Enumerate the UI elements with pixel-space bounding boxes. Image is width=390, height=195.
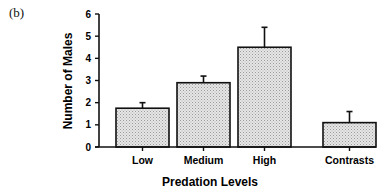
bar-low [116,103,169,147]
y-tick-label: 5 [85,31,91,42]
y-axis: 0123456 [85,9,99,153]
bar-contrasts [323,112,376,147]
y-tick-label: 4 [85,53,91,64]
bar-high [238,27,291,147]
x-tick-label: Contrasts [325,154,374,166]
x-axis: LowMediumHighContrasts [95,147,376,166]
x-tick-label: Medium [184,154,224,166]
y-tick-label: 3 [85,75,91,86]
y-tick-label: 6 [85,9,91,20]
y-tick-label: 2 [85,97,91,108]
y-axis-title: Number of Males [61,32,75,129]
bars [116,27,376,147]
y-tick-label: 1 [85,119,91,130]
y-tick-label: 0 [85,142,91,153]
x-tick-label: Low [132,154,154,166]
x-tick-label: High [253,154,276,166]
bar-chart: 0123456 LowMediumHighContrasts Number of… [0,0,390,195]
x-axis-title: Predation Levels [162,175,258,189]
bar-medium [177,76,230,147]
